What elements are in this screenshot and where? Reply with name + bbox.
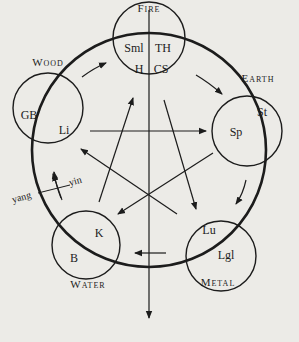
arrow-earth-to-metal <box>236 180 246 204</box>
yang-label: yang <box>11 189 33 205</box>
organ-label-th: TH <box>155 41 171 55</box>
arrow-wood-to-fire <box>82 63 106 77</box>
organ-label-st: St <box>257 105 268 119</box>
organ-label-gb: GB <box>21 108 38 122</box>
element-label-metal: Metal <box>201 276 236 288</box>
organ-label-lgl: Lgl <box>218 248 235 262</box>
arrow-fire-to-earth <box>196 75 222 94</box>
earth-circle <box>212 96 282 166</box>
element-label-wood: Wood <box>32 56 64 68</box>
organ-label-sml: Sml <box>124 41 144 55</box>
water-circle <box>52 211 120 279</box>
organ-label-b: B <box>70 251 78 265</box>
element-label-water: Water <box>70 278 105 290</box>
polarity-line <box>38 185 70 193</box>
organ-label-k: K <box>95 226 104 240</box>
organ-label-cs: CS <box>154 62 169 76</box>
organ-label-sp: Sp <box>230 125 243 139</box>
organ-label-li: Li <box>59 123 70 137</box>
five-elements-diagram: yang yin Fire Earth Metal Water Wood Sml… <box>0 0 299 342</box>
yin-label: yin <box>68 174 83 188</box>
arrow-fire-to-metal <box>164 100 196 209</box>
element-label-earth: Earth <box>241 72 274 84</box>
organ-label-h: H <box>135 62 144 76</box>
organ-label-lu: Lu <box>202 223 215 237</box>
arrow-metal-to-wood <box>81 149 177 214</box>
element-label-fire: Fire <box>137 2 160 14</box>
arrow-water-to-fire <box>99 98 133 202</box>
